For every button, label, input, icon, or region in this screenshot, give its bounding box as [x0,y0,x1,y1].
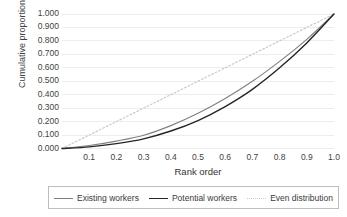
y-axis-tick-labels: 1.0000.9000.8000.7000.6000.5000.4000.300… [26,8,59,154]
x-axis-tick-label: 0.3 [129,151,159,163]
legend-label: Existing workers [77,193,139,203]
plot-area [62,14,334,149]
legend-entry[interactable]: Existing workers [54,193,139,203]
legend-entry[interactable]: Potential workers [149,193,237,203]
y-axis-tick-label: 0.600 [26,62,59,73]
series-line [62,14,334,149]
x-axis-tick-label: 1.0 [319,151,347,163]
x-axis-tick-label: 0.4 [156,151,186,163]
legend-line-swatch [247,194,266,202]
x-axis-tick-label: 0.6 [210,151,240,163]
x-axis-tick-label: 0.8 [265,151,295,163]
x-axis-tick-label: 0.9 [292,151,322,163]
legend-line-swatch [149,194,168,202]
x-axis-title: Rank order [62,165,334,178]
y-axis-tick-label: 0.700 [26,48,59,59]
y-axis-tick-label: 0.500 [26,75,59,86]
y-axis-tick-label: 0.300 [26,102,59,113]
y-axis-tick-label: 0.100 [26,129,59,140]
x-axis-tick-labels: 0.10.20.30.40.50.60.70.80.91.0 [62,151,342,163]
legend-entry[interactable]: Even distribution [247,193,333,203]
gridline [62,148,334,149]
series-lines [62,14,334,149]
x-axis-tick-label: 0.1 [74,151,104,163]
lorenz-curve-chart: Cumulative proportion 1.0000.9000.8000.7… [0,0,347,217]
y-axis-tick-label: 0.800 [26,35,59,46]
x-axis-tick-label: 0.5 [183,151,213,163]
x-axis-tick-label: 0.7 [237,151,267,163]
y-axis-tick-label: 0.000 [26,143,59,154]
y-axis-tick-label: 0.200 [26,116,59,127]
x-axis-tick-label: 0.2 [101,151,131,163]
chart-legend: Existing workersPotential workersEven di… [48,186,339,209]
y-axis-tick-label: 0.400 [26,89,59,100]
legend-label: Potential workers [172,193,237,203]
legend-label: Even distribution [270,193,333,203]
y-axis-tick-label: 0.900 [26,21,59,32]
y-axis-tick-label: 1.000 [26,8,59,19]
legend-line-swatch [54,194,73,202]
